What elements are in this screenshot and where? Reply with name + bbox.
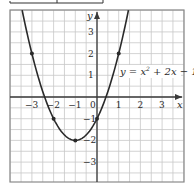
svg-text:1: 1 bbox=[88, 70, 94, 80]
svg-text:0: 0 bbox=[90, 100, 96, 110]
data-point bbox=[30, 52, 34, 56]
data-point bbox=[73, 138, 77, 142]
y-axis-label: y bbox=[86, 10, 93, 21]
svg-text:−3: −3 bbox=[25, 100, 39, 110]
data-point bbox=[52, 117, 56, 121]
chart-figure: −3−2−10123321−1−2−3 y = x2 + 2x − 1 y x bbox=[0, 0, 194, 187]
x-axis-label: x bbox=[177, 99, 183, 110]
cropped-table-edge bbox=[10, 0, 103, 3]
svg-text:−1: −1 bbox=[68, 100, 81, 110]
svg-text:y = x2 + 2x − 1: y = x2 + 2x − 1 bbox=[119, 65, 194, 77]
svg-text:1: 1 bbox=[116, 100, 122, 110]
equation-label: y = x2 + 2x − 1 bbox=[119, 65, 194, 78]
svg-text:3: 3 bbox=[88, 27, 94, 37]
svg-text:−3: −3 bbox=[83, 157, 97, 167]
data-point bbox=[95, 117, 99, 121]
data-point bbox=[117, 52, 121, 56]
svg-text:3: 3 bbox=[159, 100, 165, 110]
svg-text:2: 2 bbox=[88, 49, 94, 59]
parabola-graph: −3−2−10123321−1−2−3 y = x2 + 2x − 1 y x bbox=[0, 0, 194, 187]
svg-text:2: 2 bbox=[137, 100, 143, 110]
